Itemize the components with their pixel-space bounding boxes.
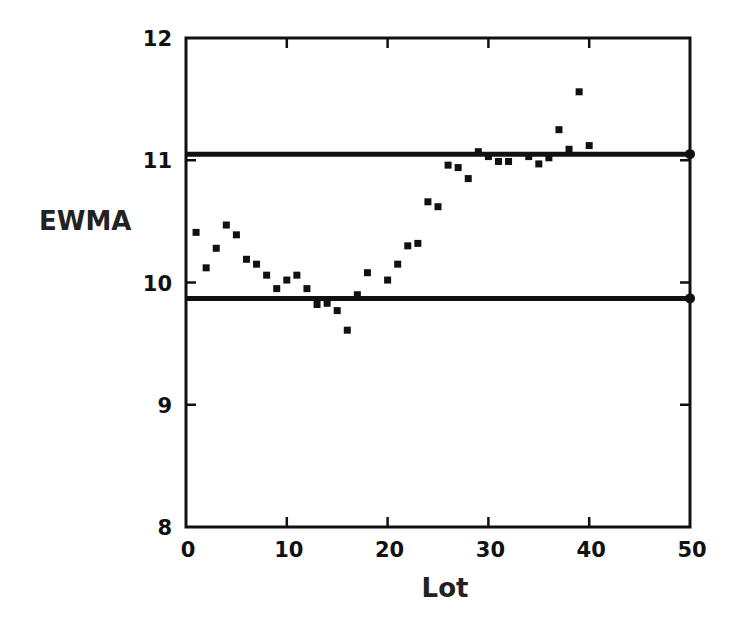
data-point: [576, 88, 583, 95]
data-point: [314, 301, 321, 308]
data-point: [424, 198, 431, 205]
control-limit-lines: [186, 149, 695, 303]
data-point: [555, 126, 562, 133]
data-point: [455, 164, 462, 171]
data-point: [525, 153, 532, 160]
data-point: [283, 277, 290, 284]
x-tick-label: 40: [577, 538, 606, 562]
data-point: [586, 142, 593, 149]
y-axis-title: EWMA: [39, 206, 131, 236]
data-point: [344, 327, 351, 334]
data-point: [263, 272, 270, 279]
data-point: [203, 264, 210, 271]
data-point: [193, 229, 200, 236]
plot-frame: [186, 38, 690, 527]
y-tick-label: 9: [157, 394, 172, 418]
data-point: [334, 307, 341, 314]
data-point: [404, 242, 411, 249]
data-point: [354, 291, 361, 298]
y-tick-label: 10: [143, 272, 172, 296]
data-point: [364, 269, 371, 276]
data-point: [435, 203, 442, 210]
data-point: [223, 222, 230, 229]
x-tick-label: 10: [274, 538, 303, 562]
lower-control-limit-line-end-dot: [685, 293, 695, 303]
y-tick-label: 8: [157, 516, 172, 540]
data-point: [414, 240, 421, 247]
data-point: [384, 277, 391, 284]
plot-border: [186, 38, 690, 527]
data-point: [213, 245, 220, 252]
data-point: [465, 175, 472, 182]
data-point: [545, 154, 552, 161]
tick-labels: 0102030405089101112: [143, 27, 707, 562]
y-tick-label: 11: [143, 149, 172, 173]
data-point: [253, 261, 260, 268]
data-point: [485, 153, 492, 160]
data-point: [445, 162, 452, 169]
data-point: [303, 285, 310, 292]
data-point: [233, 231, 240, 238]
ewma-control-chart: 0102030405089101112 EWMA Lot: [0, 0, 748, 626]
data-point: [535, 160, 542, 167]
data-point: [495, 158, 502, 165]
x-tick-label: 20: [375, 538, 404, 562]
upper-control-limit-line-end-dot: [685, 149, 695, 159]
data-point: [293, 272, 300, 279]
data-point: [394, 261, 401, 268]
data-point: [273, 285, 280, 292]
x-tick-label: 30: [476, 538, 505, 562]
data-point: [566, 146, 573, 153]
data-point: [475, 148, 482, 155]
x-axis-title: Lot: [422, 573, 469, 603]
data-point: [243, 256, 250, 263]
data-point: [324, 300, 331, 307]
x-tick-label: 0: [181, 538, 196, 562]
y-tick-label: 12: [143, 27, 172, 51]
data-point: [505, 158, 512, 165]
x-tick-label: 50: [677, 538, 706, 562]
